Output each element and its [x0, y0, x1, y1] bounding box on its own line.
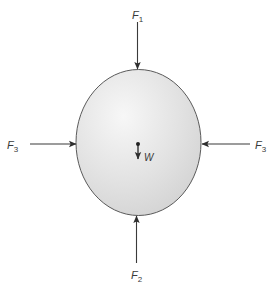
- force-f3-left: F3: [7, 139, 76, 154]
- force-f1-label: F1: [132, 9, 144, 24]
- force-f2-label: F2: [131, 269, 143, 284]
- force-f3-left-label: F3: [7, 139, 19, 154]
- force-f3-right: F3: [202, 139, 267, 154]
- force-f2: F2: [131, 216, 143, 284]
- force-f3-right-label: F3: [255, 139, 267, 154]
- free-body-diagram: F1 F2 F3 F3 W: [0, 0, 274, 287]
- weight-label: W: [144, 152, 155, 163]
- force-f1: F1: [132, 9, 144, 69]
